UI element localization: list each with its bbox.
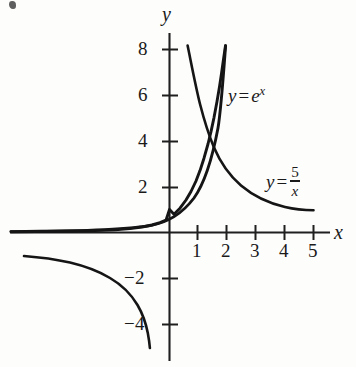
hyperbola-numerator: 5 [290, 164, 300, 180]
x-axis-label: x [334, 222, 343, 242]
hyperbola-fraction: 5 x [290, 164, 300, 198]
hyperbola-denominator: x [290, 182, 300, 198]
x-tick-label-5: 5 [308, 241, 318, 260]
y-tick-label-4: 4 [138, 131, 148, 150]
exponential-exponent: x [260, 84, 266, 98]
x-tick-label-2: 2 [221, 241, 231, 260]
exponential-operator: = [236, 85, 251, 106]
x-tick-label-1: 1 [192, 241, 202, 260]
math-plot-figure: 8 6 4 2 −2 −4 1 2 3 4 5 y x y=ex y= 5 x [0, 0, 356, 367]
y-axis-label: y [162, 4, 171, 24]
y-tick-label-2: 2 [138, 177, 148, 196]
y-tick-label-minus-4: −4 [124, 314, 145, 333]
curve-label-hyperbola: y= 5 x [266, 164, 300, 198]
plot-canvas [0, 0, 356, 367]
y-tick-label-6: 6 [138, 85, 148, 104]
y-tick-label-minus-2: −2 [124, 268, 145, 287]
hyperbola-operator: = [274, 171, 289, 192]
curve-label-exponential: y=ex [228, 85, 265, 105]
x-tick-label-3: 3 [250, 241, 260, 260]
y-tick-label-8: 8 [138, 39, 148, 58]
exponential-base: e [251, 85, 259, 106]
x-tick-label-4: 4 [279, 241, 289, 260]
